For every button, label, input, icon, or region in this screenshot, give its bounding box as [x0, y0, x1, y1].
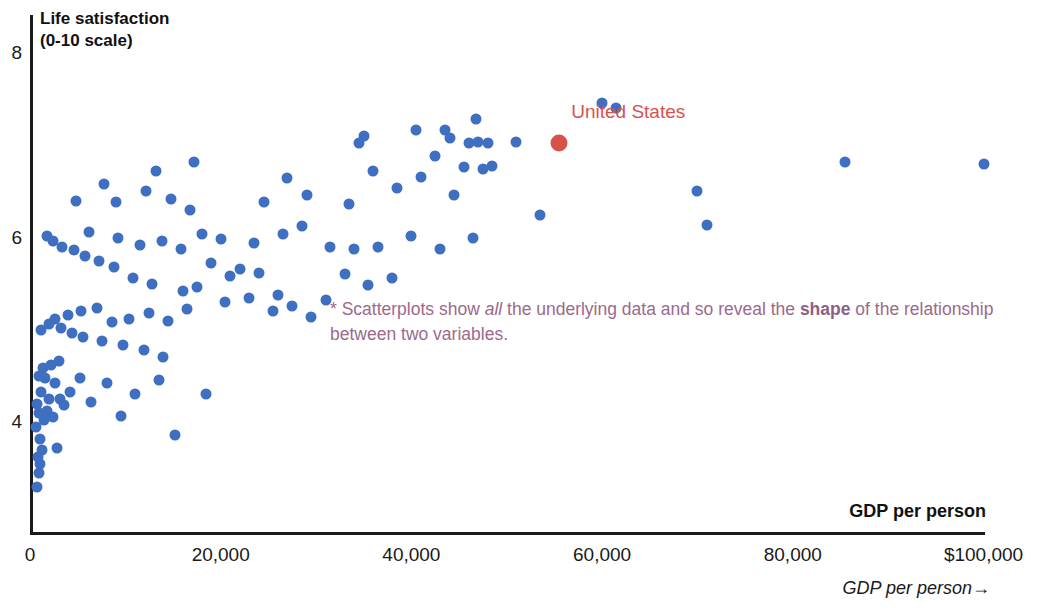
data-point	[107, 317, 118, 328]
data-point	[108, 262, 119, 273]
x-tick-20000: 20,000	[192, 545, 250, 564]
data-point	[444, 132, 455, 143]
data-point	[234, 263, 245, 274]
data-point	[76, 306, 87, 317]
data-point	[185, 204, 196, 215]
data-point	[277, 228, 288, 239]
data-point	[144, 308, 155, 319]
data-point	[57, 241, 68, 252]
data-point-highlight	[551, 135, 568, 152]
data-point	[53, 356, 64, 367]
data-point	[86, 396, 97, 407]
data-point	[91, 302, 102, 313]
data-point	[220, 297, 231, 308]
data-point	[458, 162, 469, 173]
data-point	[282, 173, 293, 184]
x-axis-title: GDP per person	[849, 501, 986, 522]
y-tick-6: 6	[0, 228, 22, 247]
data-point	[189, 156, 200, 167]
data-point	[449, 190, 460, 201]
data-point	[34, 433, 45, 444]
annotation-note: * Scatterplots show all the underlying d…	[330, 297, 1030, 348]
data-point	[78, 332, 89, 343]
data-point	[244, 293, 255, 304]
x-tick-100000: $100,000	[944, 545, 1023, 564]
data-point	[258, 197, 269, 208]
scatterplot-figure: Life satisfaction (0-10 scale) 864 020,0…	[0, 0, 1048, 612]
data-point	[487, 160, 498, 171]
data-point	[306, 311, 317, 322]
data-point	[97, 335, 108, 346]
data-point	[468, 232, 479, 243]
data-point	[36, 387, 47, 398]
highlight-label-united-states: United States	[571, 101, 685, 123]
data-point	[49, 378, 60, 389]
data-point	[156, 236, 167, 247]
data-point	[147, 278, 158, 289]
data-point	[55, 322, 66, 333]
data-point	[363, 280, 374, 291]
data-point	[166, 193, 177, 204]
data-point	[139, 345, 150, 356]
data-point	[118, 339, 129, 350]
data-point	[268, 306, 279, 317]
data-point	[353, 138, 364, 149]
data-point	[349, 243, 360, 254]
data-point	[373, 241, 384, 252]
x-axis-line	[30, 532, 985, 535]
data-point	[49, 313, 60, 324]
data-point	[31, 398, 42, 409]
data-point	[215, 234, 226, 245]
data-point	[84, 226, 95, 237]
data-point	[102, 378, 113, 389]
data-point	[196, 228, 207, 239]
data-point	[37, 444, 48, 455]
data-point	[127, 273, 138, 284]
data-point	[411, 125, 422, 136]
data-point	[163, 315, 174, 326]
data-point	[978, 158, 989, 169]
data-point	[182, 304, 193, 315]
y-tick-4: 4	[0, 412, 22, 431]
data-point	[141, 186, 152, 197]
data-point	[272, 289, 283, 300]
data-point	[253, 267, 264, 278]
data-point	[406, 230, 417, 241]
data-point	[249, 238, 260, 249]
data-point	[68, 245, 79, 256]
data-point	[150, 166, 161, 177]
data-point	[301, 190, 312, 201]
data-point	[296, 221, 307, 232]
data-point	[175, 243, 186, 254]
data-point	[110, 197, 121, 208]
data-point	[840, 156, 851, 167]
x-tick-60000: 60,000	[573, 545, 631, 564]
data-point	[99, 178, 110, 189]
y-tick-8: 8	[0, 43, 22, 62]
footer-caption: GDP per person→	[843, 578, 990, 599]
data-point	[368, 166, 379, 177]
x-tick-80000: 80,000	[764, 545, 822, 564]
data-point	[692, 186, 703, 197]
data-point	[415, 171, 426, 182]
data-point	[80, 250, 91, 261]
data-point	[339, 269, 350, 280]
data-point	[47, 412, 58, 423]
data-point	[344, 199, 355, 210]
data-point	[511, 136, 522, 147]
data-point	[287, 300, 298, 311]
annotation-segment: shape	[800, 299, 851, 319]
data-point	[129, 389, 140, 400]
data-point	[201, 389, 212, 400]
data-point	[134, 239, 145, 250]
data-point	[59, 400, 70, 411]
data-point	[124, 313, 135, 324]
data-point	[325, 241, 336, 252]
x-tick-40000: 40,000	[382, 545, 440, 564]
annotation-segment: the underlying data and so reveal the	[502, 299, 800, 319]
data-point	[701, 219, 712, 230]
data-point	[74, 372, 85, 383]
data-point	[31, 481, 42, 492]
data-point	[153, 374, 164, 385]
x-tick-0: 0	[25, 545, 36, 564]
